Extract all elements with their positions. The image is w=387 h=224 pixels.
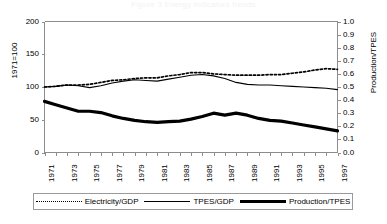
x-tick-label: 1985 (206, 164, 214, 182)
x-tick-label: 1989 (251, 164, 259, 182)
right-tick-label: 0.3 (343, 109, 365, 117)
x-tick-label: 1973 (71, 164, 79, 182)
right-tick-label: 0.0 (343, 149, 365, 157)
legend-item[interactable]: Electricity/GDP (36, 198, 139, 206)
legend-swatch-icon (36, 198, 82, 206)
x-tick-label: 1975 (93, 164, 101, 182)
x-tick-label: 1977 (116, 164, 124, 182)
right-tick-label: 0.9 (343, 31, 365, 39)
left-tick-label: 0 (13, 149, 39, 157)
x-tick-label: 1987 (228, 164, 236, 182)
x-tick-label: 1971 (48, 164, 56, 182)
legend-swatch-icon (144, 198, 190, 206)
left-tick-label: 50 (13, 116, 39, 124)
legend-item[interactable]: Production/TPES (240, 198, 350, 206)
plot-area (0, 0, 387, 224)
legend-item-label: Production/TPES (289, 198, 350, 206)
right-tick-label: 0.7 (343, 57, 365, 65)
chart-figure: Figure 3 Energy indicators trends 050100… (0, 0, 387, 224)
data-series-layer (45, 69, 338, 131)
x-tick-label: 1981 (161, 164, 169, 182)
series-line-tpes-gdp (45, 75, 338, 90)
x-tick-label: 1991 (273, 164, 281, 182)
right-tick-label: 0.5 (343, 83, 365, 91)
x-tick-label: 1983 (183, 164, 191, 182)
right-tick-label: 0.4 (343, 96, 365, 104)
x-tick-label: 1979 (138, 164, 146, 182)
right-axis-title: Production/TPES (369, 8, 378, 118)
legend-item[interactable]: TPES/GDP (144, 198, 233, 206)
legend-swatch-icon (240, 198, 286, 206)
right-tick-label: 0.1 (343, 135, 365, 143)
right-tick-label: 0.6 (343, 70, 365, 78)
x-tick-label: 1997 (341, 164, 349, 182)
legend-item-label: TPES/GDP (193, 198, 233, 206)
left-axis-title: 1971=100 (10, 21, 19, 101)
series-line-electricity-gdp (45, 69, 338, 87)
right-tick-label: 0.8 (343, 44, 365, 52)
right-tick-label: 0.2 (343, 122, 365, 130)
series-line-production-tpes (45, 101, 338, 130)
right-tick-label: 1.0 (343, 18, 365, 26)
chart-legend: Electricity/GDPTPES/GDPProduction/TPES (33, 193, 353, 210)
x-tick-label: 1993 (296, 164, 304, 182)
x-tick-label: 1995 (318, 164, 326, 182)
legend-item-label: Electricity/GDP (85, 198, 139, 206)
